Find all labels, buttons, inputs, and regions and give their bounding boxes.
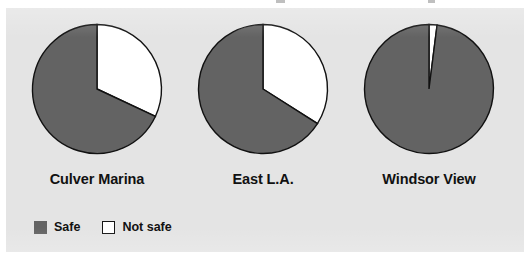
legend-item-not-safe: Not safe bbox=[102, 220, 171, 234]
legend-swatch-not-safe-icon bbox=[102, 221, 115, 234]
pie-chart-windsor-view: Windsor View bbox=[354, 23, 504, 223]
legend-label-not-safe: Not safe bbox=[122, 220, 171, 234]
legend: Safe Not safe bbox=[34, 220, 172, 234]
caption-remnant-mark bbox=[276, 0, 285, 3]
pie-svg bbox=[197, 23, 329, 155]
cropped-caption-remnant bbox=[0, 0, 530, 3]
pie-graphic bbox=[363, 23, 495, 155]
pie-label-culver-marina: Culver Marina bbox=[22, 171, 172, 187]
pie-svg bbox=[31, 23, 163, 155]
figure-panel: Culver Marina East L.A. Windsor View Saf… bbox=[6, 8, 524, 252]
pie-chart-east-la: East L.A. bbox=[188, 23, 338, 223]
caption-remnant-mark bbox=[428, 0, 435, 3]
legend-swatch-safe-icon bbox=[34, 221, 47, 234]
pie-graphic bbox=[197, 23, 329, 155]
pie-label-east-la: East L.A. bbox=[188, 171, 338, 187]
pie-slice-safe bbox=[364, 24, 493, 153]
legend-item-safe: Safe bbox=[34, 220, 80, 234]
pie-chart-row: Culver Marina East L.A. Windsor View bbox=[6, 8, 524, 252]
pie-label-windsor-view: Windsor View bbox=[354, 171, 504, 187]
pie-chart-culver-marina: Culver Marina bbox=[22, 23, 172, 223]
legend-label-safe: Safe bbox=[54, 220, 80, 234]
pie-svg bbox=[363, 23, 495, 155]
pie-graphic bbox=[31, 23, 163, 155]
